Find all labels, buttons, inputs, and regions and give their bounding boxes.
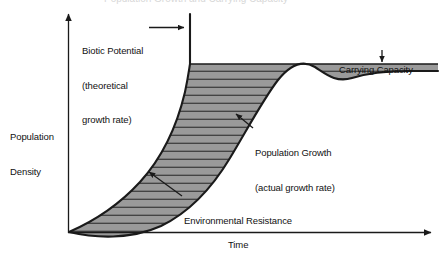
annotation-carrying-capacity-line1: Carrying Capacity: [339, 64, 413, 76]
annotation-carrying-capacity: Carrying Capacity: [339, 41, 413, 99]
y-axis-label: Population Density: [10, 108, 54, 200]
annotation-population-growth-line1: Population Growth: [255, 147, 335, 159]
annotation-environmental-resistance-line1: Environmental Resistance: [184, 215, 292, 227]
population-growth-figure: Population Growth and Carrying Capacity: [0, 0, 440, 261]
y-axis-label-line1: Population: [10, 131, 54, 143]
annotation-biotic-potential: Biotic Potential (theoretical growth rat…: [82, 22, 143, 149]
x-axis-label: Time: [228, 239, 248, 251]
annotation-biotic-potential-line2: (theoretical: [82, 80, 143, 92]
annotation-biotic-potential-line3: growth rate): [82, 114, 143, 126]
annotation-biotic-potential-line1: Biotic Potential: [82, 45, 143, 57]
y-axis-label-line2: Density: [10, 166, 54, 178]
